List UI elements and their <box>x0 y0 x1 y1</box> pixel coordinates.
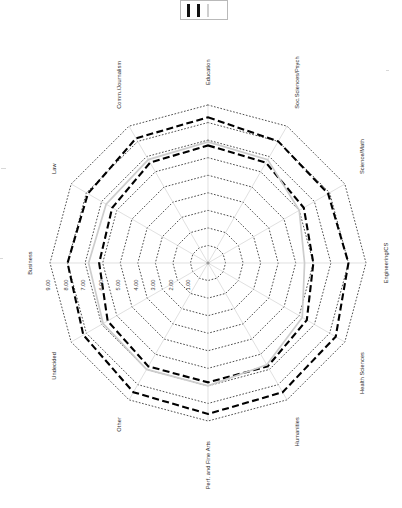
radial-tick-labels: 1.002.003.004.005.006.007.008.009.00 <box>45 280 191 291</box>
spoke-1 <box>208 126 287 263</box>
spoke-11 <box>129 126 208 263</box>
axis-label-law: Law <box>51 163 57 174</box>
radial-tick-label-8.00: 8.00 <box>63 280 69 291</box>
radar-chart-page: 1.002.003.004.005.006.007.008.009.00 Edu… <box>0 0 402 508</box>
axis-label-other: Other <box>116 417 122 432</box>
axis-label-health-sciences: Health Sciences <box>359 352 365 394</box>
series-line-3 <box>89 142 305 386</box>
axis-label-perf-and-fine-arts: Perf. and Fine Arts <box>205 441 211 489</box>
axis-label-undecided: Undecided <box>51 352 57 380</box>
axis-label-science-math: Science/Math <box>359 139 365 174</box>
radial-tick-label-3.00: 3.00 <box>150 280 156 291</box>
axis-label-comm-journalism: Comm./Journalism <box>116 60 122 108</box>
radar-chart: 1.002.003.004.005.006.007.008.009.00 Edu… <box>0 0 402 508</box>
spoke-5 <box>208 263 287 400</box>
axis-label-business: Business <box>27 251 33 275</box>
radial-tick-label-6.00: 6.00 <box>98 280 104 291</box>
radial-tick-label-5.00: 5.00 <box>115 280 121 291</box>
radar-center-hub <box>206 261 209 264</box>
radial-tick-label-7.00: 7.00 <box>80 280 86 291</box>
spoke-2 <box>208 184 345 263</box>
axis-label-engineering-cs: Engineering/CS <box>383 243 389 284</box>
spoke-4 <box>208 263 345 342</box>
axis-label-humanities: Humanities <box>294 417 300 446</box>
radial-tick-label-2.00: 2.00 <box>168 280 174 291</box>
radial-tick-label-4.00: 4.00 <box>133 280 139 291</box>
axis-label-soc-sciences-psych: Soc.Sciences/Psych <box>294 56 300 108</box>
radial-tick-label-9.00: 9.00 <box>45 280 51 291</box>
radial-tick-label-1.00: 1.00 <box>185 280 191 291</box>
axis-label-education: Education <box>205 59 211 85</box>
